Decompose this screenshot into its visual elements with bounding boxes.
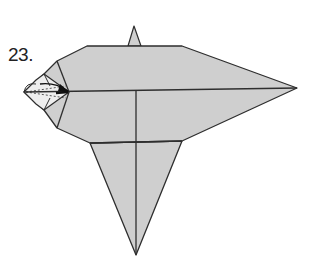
origami-diagram [0, 0, 310, 256]
top-spike [128, 26, 141, 46]
